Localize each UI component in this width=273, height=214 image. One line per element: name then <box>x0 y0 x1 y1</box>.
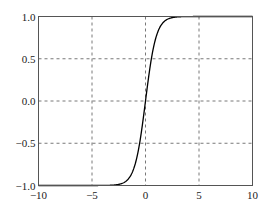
y-axis-ticks: −1.0−0.50.00.51.0 <box>16 11 36 192</box>
x-axis-ticks: −10−50510 <box>30 189 259 201</box>
x-tick-label: 5 <box>196 189 202 201</box>
y-tick-label: 0.0 <box>22 95 36 107</box>
x-tick-label: 0 <box>143 189 149 201</box>
x-tick-label: −5 <box>86 189 98 201</box>
y-tick-label: 1.0 <box>22 11 36 23</box>
line-chart: −10−50510 −1.0−0.50.00.51.0 <box>0 0 273 214</box>
y-tick-label: −1.0 <box>16 180 36 192</box>
y-tick-label: −0.5 <box>16 137 36 149</box>
y-tick-label: 0.5 <box>22 53 36 65</box>
x-tick-label: 10 <box>247 189 259 201</box>
